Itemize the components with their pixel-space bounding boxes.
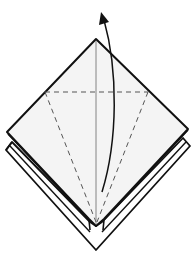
diagram-canvas (0, 0, 191, 259)
origami-diagram (0, 0, 191, 259)
front-flap (7, 39, 188, 226)
arrow-head-icon (99, 12, 109, 25)
